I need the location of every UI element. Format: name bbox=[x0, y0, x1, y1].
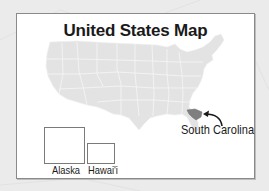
hawaii-label: Hawai'i bbox=[88, 164, 118, 176]
map-frame: United States Map bbox=[16, 13, 255, 179]
hawaii-inset-box bbox=[87, 143, 115, 164]
south-carolina-label: South Carolina bbox=[181, 122, 254, 137]
arrowhead-icon bbox=[203, 111, 209, 118]
alaska-label: Alaska bbox=[52, 164, 80, 176]
alaska-inset-box bbox=[44, 127, 85, 164]
